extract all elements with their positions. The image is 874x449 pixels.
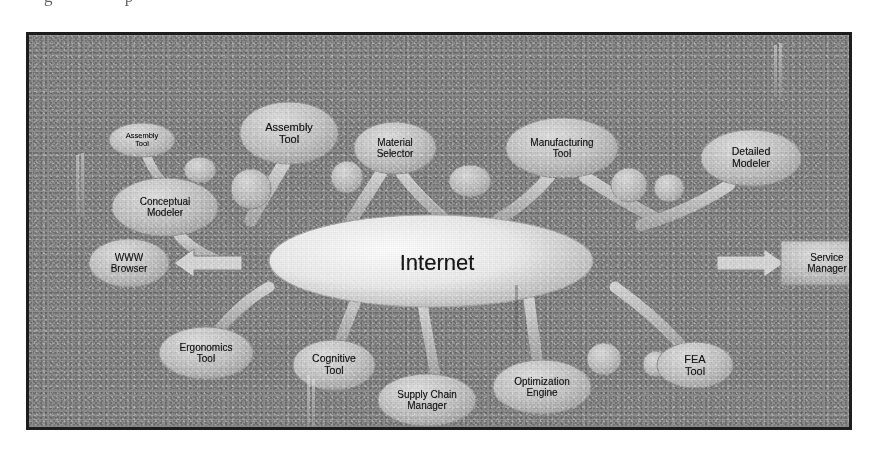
diagram-frame: Internet Assembly Tool Assembly Tool Con…	[26, 32, 852, 430]
connector-blob	[449, 165, 491, 197]
conceptual-modeler-hotspot[interactable]	[112, 178, 218, 236]
clipped-text-artifact: g p	[44, 0, 167, 7]
connector-blob	[331, 161, 363, 193]
detailed-modeler-hotspot[interactable]	[701, 130, 801, 186]
connector-blob	[184, 157, 216, 183]
material-selector-hotspot[interactable]	[354, 122, 436, 174]
connector-blob	[611, 168, 647, 202]
supply-chain-manager-hotspot[interactable]	[378, 374, 476, 426]
ergonomics-tool-hotspot[interactable]	[159, 327, 253, 379]
fea-tool-hotspot[interactable]	[657, 342, 733, 388]
assembly-tool-hotspot[interactable]	[240, 102, 338, 164]
cognitive-tool-hotspot[interactable]	[293, 340, 375, 390]
optimization-engine-hotspot[interactable]	[493, 360, 591, 414]
manufacturing-tool-hotspot[interactable]	[506, 118, 618, 178]
assembly-tool-small-hotspot[interactable]	[109, 123, 175, 157]
connector-blob	[654, 174, 684, 202]
internet-hub-hotspot[interactable]	[269, 215, 593, 307]
arrow-to-service-manager	[717, 249, 784, 277]
www-browser-hotspot[interactable]	[89, 239, 169, 287]
connector-blob	[231, 169, 271, 209]
screenshot-root: g p	[0, 0, 874, 449]
connector-blob	[587, 343, 621, 375]
service-manager-hotspot[interactable]	[781, 241, 852, 285]
